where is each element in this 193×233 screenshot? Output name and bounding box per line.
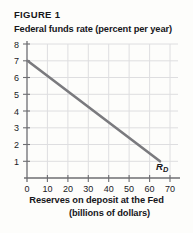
y-tick-label-1: 1 [14,157,19,167]
y-tick-label-6: 6 [14,73,19,83]
x-tick-label-50: 50 [124,184,134,194]
x-tick-label-30: 30 [83,184,93,194]
x-axis-caption-line1: Reserves on deposit at the Fed [29,195,163,205]
x-tick-label-60: 60 [145,184,155,194]
curve-label-rd-sub: D [163,165,169,174]
y-tick-label-3: 3 [14,123,19,133]
curve-label-rd: RD [156,161,169,174]
x-tick-label-40: 40 [104,184,114,194]
x-axis-caption: Reserves on deposit at the Fed (billions… [0,194,193,219]
y-tick-label-8: 8 [14,40,19,50]
x-tick-label-0: 0 [24,184,29,194]
x-tick-label-20: 20 [63,184,73,194]
y-tick-label-7: 7 [14,56,19,66]
figure-container: FIGURE 1 Federal funds rate (percent per… [0,0,193,233]
x-axis-tick-labels: 0 10 20 30 40 50 60 70 [24,184,175,194]
y-tick-label-2: 2 [14,140,19,150]
y-tick-label-4: 4 [14,107,19,117]
x-tick-label-70: 70 [165,184,175,194]
x-tick-label-10: 10 [42,184,52,194]
horizontal-gridlines [27,44,178,161]
x-axis-caption-line2: (billions of dollars) [0,207,193,220]
y-tick-label-5: 5 [14,90,19,100]
y-axis-tick-labels: 8 7 6 5 4 3 2 1 [14,40,19,167]
